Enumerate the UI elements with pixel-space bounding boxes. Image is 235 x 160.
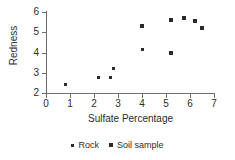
legend-label: Rock [78,140,99,150]
legend-marker-icon [71,144,74,147]
legend-marker-icon [109,143,113,147]
x-axis-title: Sulfate Percentage [46,113,215,124]
data-point [109,76,112,79]
data-point [140,24,144,28]
data-point [112,67,115,70]
plot-area [46,12,214,93]
data-point [64,83,67,86]
x-axis-tick-label: 7 [208,99,220,109]
data-point [200,26,204,30]
x-axis-tick-label: 5 [160,99,172,109]
legend-label: Soil sample [117,140,164,150]
data-point [141,48,144,51]
y-axis-tick-label: 4 [27,48,39,58]
data-point [182,16,186,20]
x-axis-tick-label: 6 [184,99,196,109]
y-axis-tick-label: 6 [27,7,39,17]
legend-item: Rock [71,140,99,150]
data-point [97,76,100,79]
legend-item: Soil sample [109,140,164,150]
x-axis-tick-label: 0 [40,99,52,109]
y-axis-tick-label: 2 [27,88,39,98]
scatter-chart: 23456 01234567 Sulfate Percentage Rednes… [0,0,235,160]
y-axis-tick-label: 5 [27,27,39,37]
x-axis-tick-label: 2 [88,99,100,109]
data-point [169,18,173,22]
y-axis-tick-label: 3 [27,68,39,78]
x-axis-tick-label: 4 [136,99,148,109]
chart-legend: RockSoil sample [0,140,235,150]
data-point [169,51,173,55]
data-point [193,19,197,23]
y-axis-title: Redness [8,16,19,76]
x-axis-tick-label: 1 [64,99,76,109]
x-axis-tick-label: 3 [112,99,124,109]
